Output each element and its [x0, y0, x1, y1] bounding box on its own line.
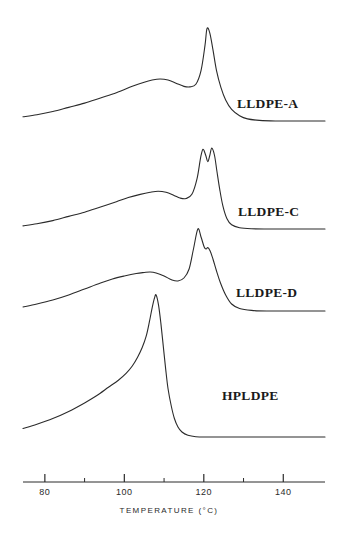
x-axis-group [23, 474, 325, 482]
x-axis-tick-label: 80 [39, 487, 50, 497]
x-axis-title: TEMPERATURE (°C) [0, 506, 338, 515]
x-axis-tick-label: 100 [116, 487, 133, 497]
dsc-thermogram-figure [0, 0, 338, 537]
curve-label-hpldpe: HPLDPE [222, 388, 279, 404]
x-axis-tick-label: 140 [275, 487, 292, 497]
curve-label-lldpe-d: LLDPE-D [236, 285, 297, 301]
x-axis-tick-label: 120 [196, 487, 213, 497]
curves-group [23, 28, 325, 437]
thermogram-curve-hpldpe [23, 295, 325, 437]
curve-label-lldpe-a: LLDPE-A [237, 96, 298, 112]
curve-label-lldpe-c: LLDPE-C [238, 204, 299, 220]
